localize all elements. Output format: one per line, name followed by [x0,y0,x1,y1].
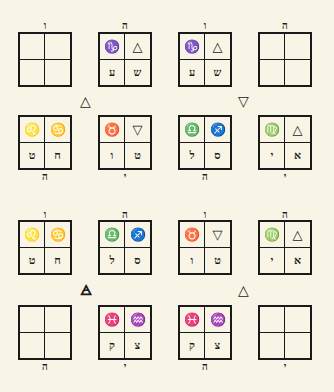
grid-cell [45,60,70,86]
box-label-bottom: י [98,362,152,372]
grid-cell: ♓ [100,307,125,333]
grid-cell: △ [285,117,310,143]
grid-box: ♎ ♐ ל ס [178,115,232,170]
grid-cell [285,333,310,359]
grid-cell: ♍ [260,222,285,248]
grid-cell: ט [20,248,45,274]
box-label-bottom: י [258,362,312,372]
box-label-top: ה [98,21,152,31]
fire-triangle-icon: △ [80,94,91,108]
grid-cell: ♉ [180,222,205,248]
grid-cell: ו [180,248,205,274]
grid-cell: ♓ [180,307,205,333]
grid-cell: ▽ [125,117,150,143]
box-label-bottom: י [98,172,152,182]
grid-cell: ♑ [180,34,205,60]
grid-cell: ♌ [20,117,45,143]
grid-box: ♑ △ ע ש [98,32,152,87]
grid-cell [20,333,45,359]
grid-cell [260,333,285,359]
grid-cell [20,34,45,60]
grid-cell: ס [205,143,230,169]
air-triangle-icon: 🜁 [80,283,92,297]
grid-cell: ♋ [45,117,70,143]
grid-cell: ח [45,248,70,274]
grid-cell: ט [205,248,230,274]
grid-cell: ♉ [100,117,125,143]
grid-box [18,32,72,87]
grid-cell: צ [205,333,230,359]
grid-cell [285,60,310,86]
grid-box: ♉ ▽ ו ט [178,220,232,275]
grid-cell: ט [20,143,45,169]
grid-box: ♌ ♋ ט ח [18,115,72,170]
box-label-bottom: י [258,172,312,182]
grid-cell: ▽ [205,222,230,248]
grid-cell: ל [100,248,125,274]
grid-box: ♓ ♒ ק צ [178,305,232,360]
grid-cell: △ [205,34,230,60]
grid-box: ♎ ♐ ל ס [98,220,152,275]
grid-cell: ק [100,333,125,359]
grid-box: ♉ ▽ ו ט [98,115,152,170]
water-triangle-icon: ▽ [238,94,249,108]
grid-cell [260,60,285,86]
grid-cell: △ [125,34,150,60]
grid-cell [285,307,310,333]
grid-cell: ♐ [205,117,230,143]
grid-cell: ♍ [260,117,285,143]
grid-cell: △ [285,222,310,248]
box-label-top: ו [178,210,232,220]
grid-cell: י [260,248,285,274]
box-label-top: ה [258,210,312,220]
grid-cell: א [285,248,310,274]
grid-cell: ע [100,60,125,86]
fire-triangle-icon: △ [238,283,249,297]
grid-box: ♑ △ ע ש [178,32,232,87]
grid-cell: ♌ [20,222,45,248]
box-label-bottom: ה [178,172,232,182]
grid-cell: ל [180,143,205,169]
box-label-bottom: ה [18,172,72,182]
grid-cell: ק [180,333,205,359]
grid-cell: ♋ [45,222,70,248]
grid-cell [20,307,45,333]
box-label-bottom: ה [18,362,72,372]
grid-cell [260,34,285,60]
grid-box [258,32,312,87]
grid-cell: ♐ [125,222,150,248]
grid-cell: ש [125,60,150,86]
grid-cell: ע [180,60,205,86]
grid-cell [20,60,45,86]
grid-cell: ♎ [100,222,125,248]
box-label-top: ה [258,21,312,31]
grid-cell: י [260,143,285,169]
grid-cell: ♒ [125,307,150,333]
grid-cell: ס [125,248,150,274]
grid-box [18,305,72,360]
box-label-top: ה [98,210,152,220]
grid-cell: צ [125,333,150,359]
box-label-bottom: ה [178,362,232,372]
grid-box: ♓ ♒ ק צ [98,305,152,360]
grid-cell: א [285,143,310,169]
grid-cell [45,333,70,359]
grid-cell: ♑ [100,34,125,60]
grid-cell: ש [205,60,230,86]
grid-cell: ו [100,143,125,169]
grid-box [258,305,312,360]
grid-cell [45,307,70,333]
grid-box: ♌ ♋ ט ח [18,220,72,275]
grid-cell [285,34,310,60]
grid-cell: ח [45,143,70,169]
grid-cell: ♒ [205,307,230,333]
grid-box: ♍ △ י א [258,115,312,170]
grid-cell: ♎ [180,117,205,143]
box-label-top: ו [18,210,72,220]
grid-box: ♍ △ י א [258,220,312,275]
grid-cell [260,307,285,333]
box-label-top: ו [178,21,232,31]
grid-cell: ט [125,143,150,169]
box-label-top: ו [18,21,72,31]
grid-cell [45,34,70,60]
